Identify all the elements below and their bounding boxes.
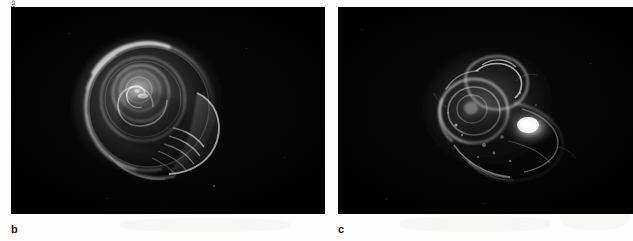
panel-b-image <box>11 7 325 214</box>
figure-root: DAVID LITTSCHWAGER/National Geographic S… <box>0 0 633 241</box>
dissolved-shell-image <box>410 41 582 186</box>
scan-texture <box>120 218 290 232</box>
panel-c-image <box>338 7 633 214</box>
scan-texture <box>400 216 550 232</box>
panel-label-b: b <box>11 224 18 235</box>
panel-label-c: c <box>338 224 344 235</box>
intact-shell-image <box>57 29 257 194</box>
